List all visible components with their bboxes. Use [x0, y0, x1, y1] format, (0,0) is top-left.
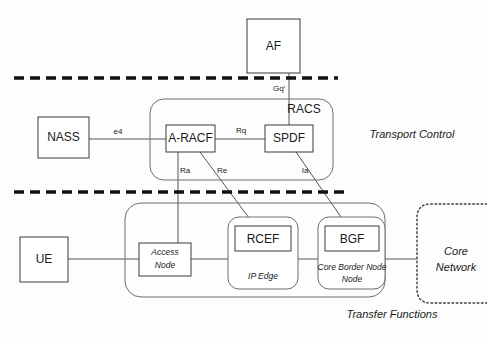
node-access-node: Access Node: [139, 243, 191, 276]
core-network-label-line1: Core: [444, 245, 468, 257]
node-nass: NASS: [38, 117, 89, 158]
core-border-node-label-line2: Node: [342, 274, 363, 284]
node-af-label: AF: [266, 39, 281, 53]
node-spdf-label: SPDF: [273, 131, 305, 145]
ip-edge-label: IP Edge: [248, 271, 278, 281]
architecture-diagram: RACS Core Network RCEF IP Edge BGF Core …: [0, 0, 487, 337]
iface-gq-label: Gq′: [273, 84, 286, 93]
node-access-node-label-line1: Access: [150, 247, 179, 257]
iface-ra-label: Ra: [180, 166, 191, 175]
node-ue: UE: [20, 237, 68, 282]
node-access-node-label-line2: Node: [155, 260, 176, 270]
iface-e4-label: e4: [114, 127, 123, 136]
group-core-border-node: BGF Core Border Node Node: [318, 217, 387, 289]
zone-transfer-functions-label: Transfer Functions: [347, 308, 438, 320]
core-network-label-line2: Network: [436, 261, 477, 273]
diagram-canvas: RACS Core Network RCEF IP Edge BGF Core …: [0, 0, 487, 337]
node-nass-label: NASS: [47, 130, 80, 144]
node-a-racf-label: A-RACF: [168, 131, 213, 145]
group-ip-edge: RCEF IP Edge: [228, 217, 298, 289]
node-rcef-label: RCEF: [247, 232, 280, 246]
node-af: AF: [247, 19, 300, 73]
group-core-network: Core Network: [417, 204, 487, 303]
node-spdf: SPDF: [265, 125, 313, 152]
iface-re-label: Re: [217, 166, 228, 175]
core-border-node-label-line1: Core Border Node: [318, 262, 387, 272]
node-a-racf: A-RACF: [166, 125, 215, 152]
zone-transport-control-label: Transport Control: [370, 128, 455, 140]
racs-label: RACS: [287, 102, 320, 116]
node-bgf-label: BGF: [340, 232, 365, 246]
iface-ia-label: Ia: [302, 166, 309, 175]
node-ue-label: UE: [36, 252, 53, 266]
iface-rq-label: Rq: [236, 126, 246, 135]
